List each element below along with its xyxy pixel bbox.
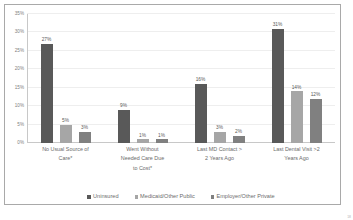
bar[interactable]: 1% (156, 139, 168, 143)
bar[interactable]: 3% (214, 132, 226, 143)
category-label-line: to Cost* (104, 164, 181, 173)
legend-label: Employer/Other Private (216, 194, 274, 200)
bar-value-label: 31% (273, 23, 283, 28)
bar-value-label: 27% (42, 38, 52, 43)
x-axis-category-labels: No Usual Source ofCare*Went WithoutNeede… (27, 145, 335, 189)
y-axis-tick-label: 10% (15, 104, 24, 109)
y-axis-tick-label: 25% (15, 49, 24, 54)
y-axis: 0%5%10%15%20%25%30%35% (5, 14, 26, 143)
category-label-line: Needed Care Due (104, 154, 181, 163)
y-axis-tick-label: 20% (15, 67, 24, 72)
category-label-line: Last MD Contact > (181, 145, 258, 154)
bar-group: 27%5%3% (41, 14, 91, 143)
y-axis-tick-label: 15% (15, 85, 24, 90)
bar[interactable]: 27% (41, 44, 53, 144)
chart-legend: UninsuredMedicaid/Other PublicEmployer/O… (27, 191, 335, 203)
category-label-line: Years Ago (258, 154, 335, 163)
bar[interactable]: 16% (195, 84, 207, 143)
legend-label: Medicaid/Other Public (140, 194, 195, 200)
bar-value-label: 3% (216, 126, 223, 131)
bar[interactable]: 31% (272, 29, 284, 143)
bar-value-label: 3% (81, 126, 88, 131)
category-label-line: Care* (27, 154, 104, 163)
legend-swatch-icon (87, 195, 91, 199)
bar[interactable]: 12% (310, 99, 322, 143)
legend-item[interactable]: Employer/Other Private (211, 194, 275, 200)
x-axis-category-label: No Usual Source ofCare* (27, 145, 104, 164)
x-axis-category-label: Last Dental Visit >2Years Ago (258, 145, 335, 164)
category-label-line: Went Without (104, 145, 181, 154)
legend-swatch-icon (211, 195, 215, 199)
bar-group: 16%3%2% (195, 14, 245, 143)
bar[interactable]: 14% (291, 91, 303, 143)
x-axis-category-label: Went WithoutNeeded Care Dueto Cost* (104, 145, 181, 173)
x-axis-category-label: Last MD Contact >2 Years Ago (181, 145, 258, 164)
y-axis-tick-label: 0% (17, 141, 24, 146)
slide-canvas: 0%5%10%15%20%25%30%35% 27%5%3%9%1%1%16%3… (0, 0, 353, 220)
bar-series-layer: 27%5%3%9%1%1%16%3%2%31%14%12% (27, 14, 335, 143)
page-number: 18 (347, 216, 351, 219)
bar-value-label: 12% (311, 93, 321, 98)
bar-group: 9%1%1% (118, 14, 168, 143)
y-axis-tick-label: 35% (15, 12, 24, 17)
category-label-line: No Usual Source of (27, 145, 104, 154)
bar[interactable]: 3% (79, 132, 91, 143)
bar-value-label: 14% (292, 86, 302, 91)
legend-item[interactable]: Uninsured (87, 194, 118, 200)
y-axis-tick-label: 5% (17, 122, 24, 127)
bar-value-label: 2% (235, 130, 242, 135)
bar-value-label: 1% (158, 134, 165, 139)
bar-value-label: 9% (120, 104, 127, 109)
bar-value-label: 16% (196, 78, 206, 83)
legend-item[interactable]: Medicaid/Other Public (135, 194, 195, 200)
bar[interactable]: 2% (233, 136, 245, 143)
bar-group: 31%14%12% (272, 14, 322, 143)
legend-swatch-icon (135, 195, 139, 199)
category-label-line: 2 Years Ago (181, 154, 258, 163)
category-label-line: Last Dental Visit >2 (258, 145, 335, 154)
bar[interactable]: 5% (60, 125, 72, 143)
chart-container: 0%5%10%15%20%25%30%35% 27%5%3%9%1%1%16%3… (4, 4, 341, 205)
legend-label: Uninsured (93, 194, 119, 200)
bar[interactable]: 1% (137, 139, 149, 143)
bar-value-label: 1% (139, 134, 146, 139)
bar-value-label: 5% (62, 119, 69, 124)
y-axis-tick-label: 30% (15, 30, 24, 35)
bar[interactable]: 9% (118, 110, 130, 143)
